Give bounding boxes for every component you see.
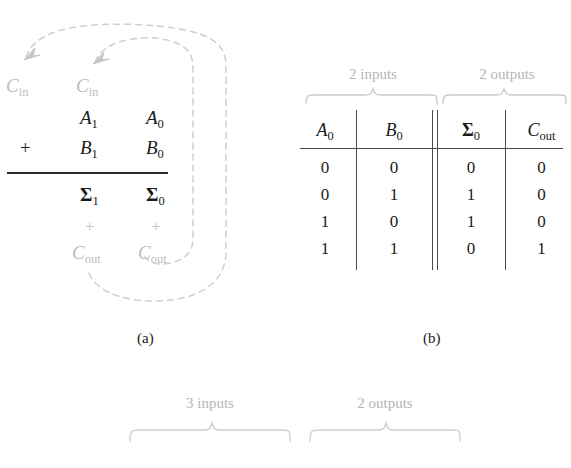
table-header-a0: A0	[300, 120, 350, 142]
cell-a0: 0	[300, 158, 350, 178]
cell-a0: 0	[300, 185, 350, 205]
inputs-group-brace	[290, 88, 450, 106]
carry-in-label-0: Cin	[76, 76, 98, 98]
carry-plus-1: +	[85, 218, 95, 235]
cell-b0: 1	[369, 185, 419, 205]
panel-a-caption: (a)	[137, 330, 154, 347]
outputs-group-brace	[437, 88, 571, 106]
table-row: 0 0 0 0	[290, 158, 563, 185]
carry-out-label-1: Cout	[72, 243, 101, 265]
cell-cout: 0	[514, 158, 569, 178]
sum-rule	[7, 172, 168, 174]
outputs-group-label: 2 outputs	[442, 66, 571, 83]
panel-c: 3 inputs 2 outputs	[0, 395, 563, 468]
cell-cout: 0	[514, 212, 569, 232]
cell-b0: 0	[369, 158, 419, 178]
table-row: 1 1 0 1	[290, 239, 563, 266]
carry-in-label-1: Cin	[6, 76, 28, 98]
cell-b0: 1	[369, 239, 419, 259]
operand-a1: A1	[80, 108, 98, 130]
cell-sigma0: 0	[445, 158, 497, 178]
cell-sigma0: 1	[445, 185, 497, 205]
table-row: 1 0 1 0	[290, 212, 563, 239]
addition-operator: +	[20, 138, 31, 157]
sum-sigma1: Σ1	[80, 185, 99, 207]
inputs-group-brace-3	[126, 421, 296, 441]
table-header-cout: Cout	[514, 120, 569, 142]
table-header-b0: B0	[369, 120, 419, 142]
inputs-group-label: 2 inputs	[308, 66, 438, 83]
operand-b1: B1	[80, 138, 98, 160]
panel-a-feedback-loops	[0, 0, 290, 360]
operand-a0: A0	[146, 108, 164, 130]
cell-cout: 0	[514, 185, 569, 205]
carry-plus-0: +	[151, 218, 161, 235]
operand-b0: B0	[146, 138, 164, 160]
cell-a0: 1	[300, 212, 350, 232]
cell-cout: 1	[514, 239, 569, 259]
panel-b: 2 inputs 2 outputs A0 B0 Σ0 Cout	[290, 0, 563, 360]
sum-sigma0: Σ0	[146, 185, 165, 207]
table-row: 0 1 1 0	[290, 185, 563, 212]
carry-out-label-0: Cout	[138, 243, 167, 265]
table-header-sigma0: Σ0	[445, 120, 497, 142]
cell-sigma0: 1	[445, 212, 497, 232]
header-rule	[300, 148, 563, 149]
cell-b0: 0	[369, 212, 419, 232]
cell-sigma0: 0	[445, 239, 497, 259]
outputs-group-brace-3	[306, 421, 466, 441]
panel-b-caption: (b)	[423, 330, 441, 347]
panel-a: Cin Cin A1 A0 + B1 B0 Σ1 Σ0 + +	[0, 0, 290, 360]
inputs-group-label-3: 3 inputs	[130, 395, 290, 412]
outputs-group-label-3: 2 outputs	[310, 395, 460, 412]
cell-a0: 1	[300, 239, 350, 259]
